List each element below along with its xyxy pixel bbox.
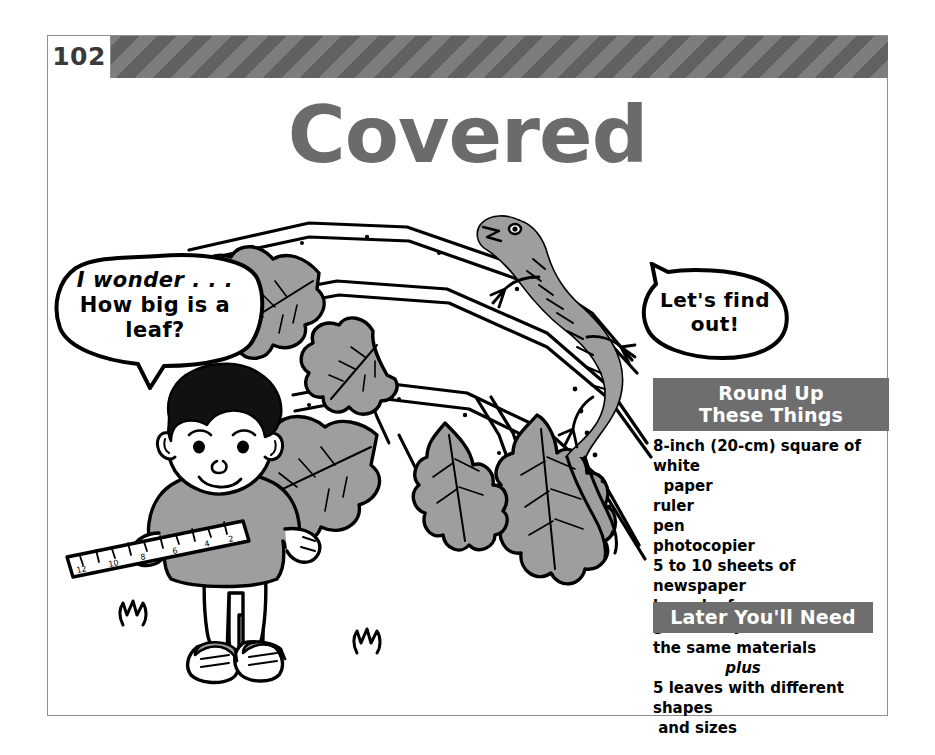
panel-round-up-heading-line1: Round Up <box>659 382 883 404</box>
panel-later-heading: Later You'll Need <box>653 602 873 633</box>
grass-tuft <box>120 601 146 625</box>
list-item: pen <box>653 517 889 537</box>
svg-text:12: 12 <box>76 564 88 575</box>
oak-leaf <box>413 423 507 550</box>
panel-round-up-heading: Round Up These Things <box>653 378 889 431</box>
speech-bubble-left-text: I wonder . . . How big is a leaf? <box>55 268 255 344</box>
bubble-left-line2: How big is a <box>80 293 230 317</box>
page-number: 102 <box>52 44 106 71</box>
oak-leaf <box>491 415 615 584</box>
later-line-1: the same materials <box>653 639 903 659</box>
bubble-left-line1: I wonder . . . <box>55 268 255 293</box>
worksheet-page: 102 Covered <box>0 0 935 755</box>
later-line-2: 5 leaves with different shapes and sizes <box>653 679 903 739</box>
list-item: photocopier <box>653 537 889 557</box>
list-item: 8-inch (20-cm) square of white paper <box>653 437 889 497</box>
panel-round-up-heading-line2: These Things <box>659 404 883 426</box>
page-number-plate: 102 <box>47 35 111 78</box>
later-materials-list: the same materials plus 5 leaves with di… <box>653 633 903 739</box>
bubble-right-line1: Let's find <box>660 288 770 312</box>
later-plus: plus <box>653 659 833 679</box>
page-title: Covered <box>0 96 935 175</box>
panel-later-youll-need: Later You'll Need the same materials plu… <box>653 602 873 739</box>
header-stripe-band <box>110 36 888 78</box>
list-item: 5 to 10 sheets of newspaper <box>653 557 889 597</box>
bubble-right-line2: out! <box>691 312 740 336</box>
svg-text:10: 10 <box>108 558 120 569</box>
speech-bubble-right-text: Let's find out! <box>655 288 775 336</box>
grass-tuft <box>354 629 380 653</box>
oak-leaf <box>301 318 397 414</box>
list-item: ruler <box>653 497 889 517</box>
panel-round-up-these-things: Round Up These Things 8-inch (20-cm) squ… <box>653 378 889 637</box>
bubble-left-line3: leaf? <box>125 318 184 342</box>
